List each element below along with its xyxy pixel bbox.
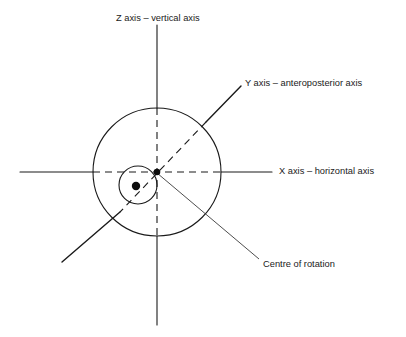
y-axis-solid-upper: [206, 86, 241, 122]
diagram-page: Z axis – vertical axis Y axis – anteropo…: [0, 0, 406, 337]
centre-of-rotation-leader-line: [157, 173, 259, 259]
small-circle-centre-dot: [132, 182, 140, 190]
axes-diagram: Z axis – vertical axis Y axis – anteropo…: [0, 0, 406, 337]
y-axis-label: Y axis – anteroposterior axis: [245, 78, 362, 88]
z-axis-label: Z axis – vertical axis: [116, 13, 200, 23]
centre-of-rotation-dot: [154, 169, 161, 176]
x-axis-label: X axis – horizontal axis: [279, 166, 374, 176]
y-axis-solid-lower: [62, 212, 120, 262]
centre-of-rotation-label: Centre of rotation: [263, 259, 335, 269]
